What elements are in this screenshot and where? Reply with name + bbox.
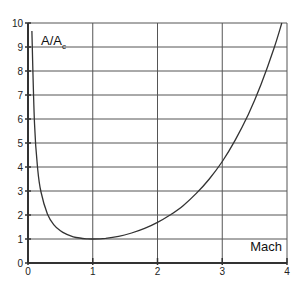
y-axis-label: A/Ac xyxy=(41,33,66,51)
x-tick-label: 1 xyxy=(90,266,96,277)
grid-lines xyxy=(28,23,287,263)
x-axis-label: Mach xyxy=(250,239,282,254)
x-tick-label: 3 xyxy=(219,266,225,277)
y-tick-label: 4 xyxy=(17,162,23,173)
y-tick-label: 9 xyxy=(17,42,23,53)
y-tick-label: 3 xyxy=(17,186,23,197)
y-tick-label: 6 xyxy=(17,114,23,125)
y-tick-label: 7 xyxy=(17,90,23,101)
area-mach-chart: 01234 012345678910 A/Ac Mach xyxy=(0,0,303,287)
x-tick-label: 2 xyxy=(155,266,161,277)
area-ratio-curve xyxy=(32,23,282,239)
y-tick-label: 2 xyxy=(17,210,23,221)
x-tick-labels: 01234 xyxy=(25,266,290,277)
y-tick-label: 10 xyxy=(12,18,24,29)
y-tick-labels: 012345678910 xyxy=(12,18,24,269)
y-tick-label: 1 xyxy=(17,234,23,245)
y-tick-label: 8 xyxy=(17,66,23,77)
y-tick-label: 5 xyxy=(17,138,23,149)
x-tick-label: 0 xyxy=(25,266,31,277)
x-tick-label: 4 xyxy=(284,266,290,277)
axes xyxy=(25,23,287,265)
y-tick-label: 0 xyxy=(17,258,23,269)
